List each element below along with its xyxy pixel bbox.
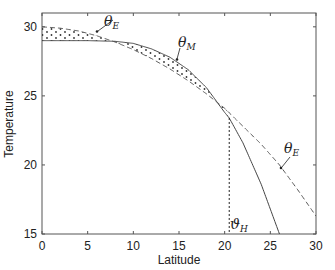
y-tick-labels: 15 20 25 30 [24,20,38,241]
y-axis-label: Temperature [2,90,16,158]
x-tick-label: 30 [309,239,323,253]
chart-svg: 0 5 10 15 20 25 30 15 20 25 30 Latitude … [0,0,335,270]
annotation-theta-e-right: θE [280,140,300,169]
x-tick-label: 25 [264,239,278,253]
plot-area [42,27,316,234]
x-tick-label: 5 [84,239,91,253]
svg-text:θM: θM [178,34,196,52]
annotation-theta-e-top: θE [96,13,120,33]
x-tick-label: 10 [127,239,141,253]
y-tick-label: 25 [24,89,38,103]
svg-text:ϑH: ϑH [230,216,248,234]
x-axis-label: Latitude [158,253,201,267]
chart-container: 0 5 10 15 20 25 30 15 20 25 30 Latitude … [0,0,335,270]
y-tick-label: 15 [24,227,38,241]
x-tick-label: 20 [218,239,232,253]
svg-text:θE: θE [104,13,119,31]
theta-e-line [42,27,316,216]
y-tick-label: 30 [24,20,38,34]
y-tick-label: 20 [24,158,38,172]
x-tick-label: 15 [172,239,186,253]
x-tick-label: 0 [39,239,46,253]
svg-text:θE: θE [284,140,299,158]
theta-m-line [42,41,279,234]
annotation-theta-h: ϑH [230,216,248,234]
x-tick-labels: 0 5 10 15 20 25 30 [39,239,323,253]
annotation-theta-m: θM [176,34,197,61]
